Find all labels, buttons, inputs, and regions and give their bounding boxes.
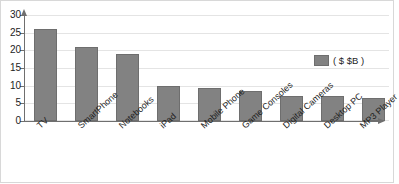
legend-label-dollars-billions: ( $ $B ) <box>333 56 364 66</box>
y-axis-label-30: 30 <box>10 10 21 20</box>
y-axis-label-10: 10 <box>10 81 21 91</box>
bar-tv[interactable] <box>34 29 57 121</box>
y-axis-label-15: 15 <box>10 63 21 73</box>
y-axis-label-25: 25 <box>10 28 21 38</box>
x-axis-labels: TV SmartPhone Notebooks iPad Mobile Phon… <box>1 123 395 184</box>
y-axis-label-5: 5 <box>15 98 21 108</box>
legend: ( $ $B ) <box>314 55 364 66</box>
legend-swatch-dollars-billions <box>314 55 329 66</box>
bars-layer <box>24 15 389 121</box>
y-axis-label-20: 20 <box>10 45 21 55</box>
